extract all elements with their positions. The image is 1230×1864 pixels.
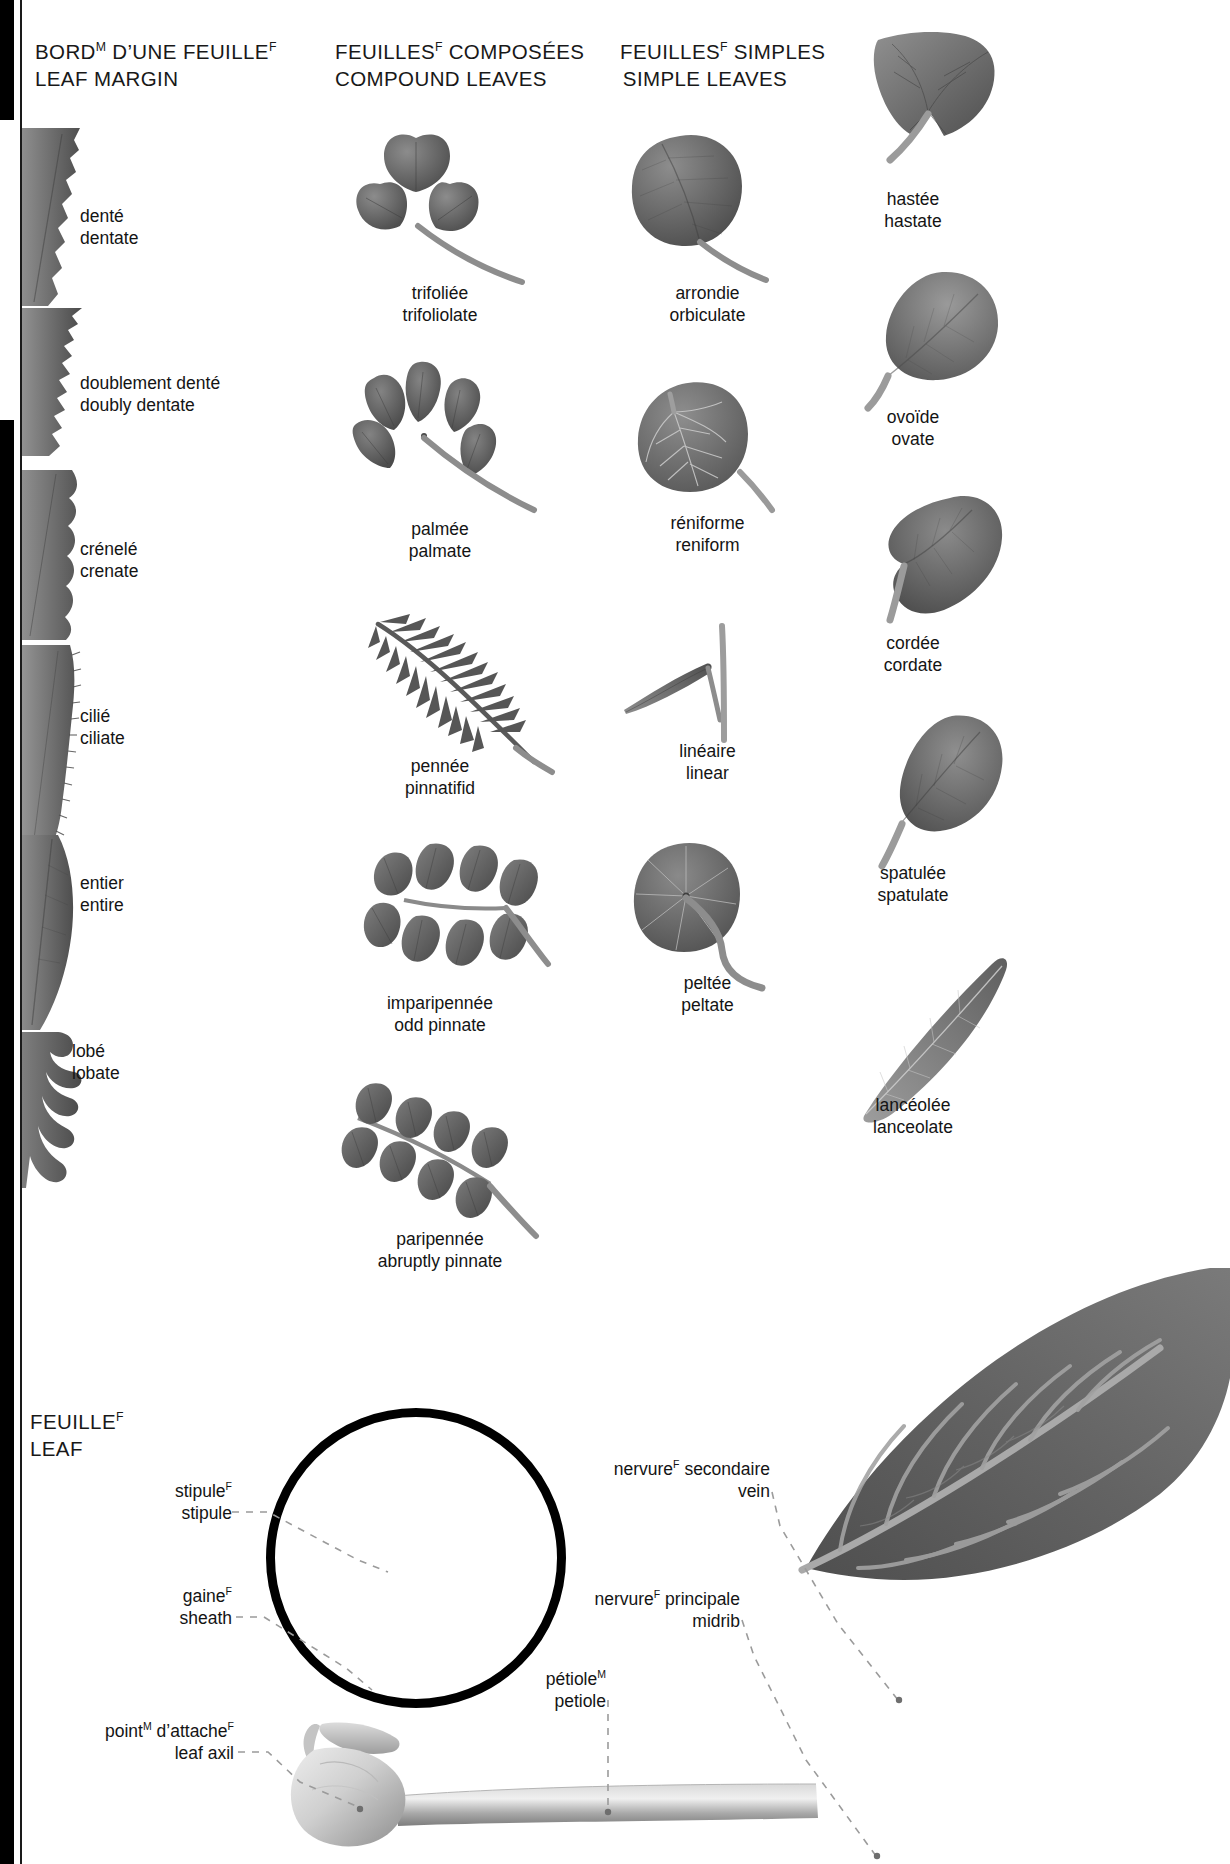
leaf-margin-crenate-art bbox=[22, 470, 80, 640]
leaf-abruptly-pinnate-art bbox=[340, 1078, 550, 1248]
leaf-trifoliolate-art bbox=[350, 130, 540, 290]
caption-vein: nervureF secondaire vein bbox=[560, 1458, 770, 1503]
leaf-orbiculate-art bbox=[622, 130, 792, 290]
caption-cordate: cordéecordate bbox=[838, 632, 988, 677]
caption-reniform: réniformereniform bbox=[610, 512, 805, 557]
leaf-margin-dentate-art bbox=[22, 128, 82, 308]
caption-hastate: hastéehastate bbox=[838, 188, 988, 233]
caption-palmate: palméepalmate bbox=[340, 518, 540, 563]
caption-abruptly-pinnate: paripennéeabruptly pinnate bbox=[330, 1228, 550, 1273]
caption-ciliate: ciliéciliate bbox=[80, 705, 125, 750]
leaf-margin-doubly-dentate-art bbox=[22, 308, 84, 458]
leaf-linear-art bbox=[620, 618, 780, 748]
caption-lobate: lobélobate bbox=[72, 1040, 120, 1085]
caption-stipule: stipuleF stipule bbox=[32, 1480, 232, 1525]
caption-pinnatifid: pennéepinnatifid bbox=[340, 755, 540, 800]
caption-linear: linéairelinear bbox=[610, 740, 805, 785]
caption-petiole: pétioleM petiole bbox=[438, 1668, 606, 1713]
leaf-margin-ciliate-art bbox=[22, 645, 80, 845]
header-simple-leaves: FEUILLESF SIMPLES SIMPLE LEAVES bbox=[620, 38, 790, 92]
index-tab bbox=[0, 120, 14, 420]
magnifier-circle bbox=[266, 1408, 566, 1708]
caption-orbiculate: arrondieorbiculate bbox=[610, 282, 805, 327]
header-compound-leaves: FEUILLESF COMPOSÉES COMPOUND LEAVES bbox=[335, 38, 540, 92]
leaf-cordate-art bbox=[856, 490, 1026, 650]
caption-entire: entierentire bbox=[80, 872, 124, 917]
leaf-anatomy-base-art bbox=[262, 1720, 462, 1864]
leaf-margin-entire-art bbox=[22, 835, 80, 1030]
caption-crenate: crénelécrenate bbox=[80, 538, 138, 583]
leaf-reniform-art bbox=[622, 372, 792, 522]
caption-lanceolate: lancéoléelanceolate bbox=[838, 1094, 988, 1139]
leaf-spatulate-art bbox=[868, 712, 1028, 872]
caption-dentate: dentédentate bbox=[80, 205, 138, 250]
header-leaf: FEUILLEF LEAF bbox=[30, 1408, 124, 1462]
leaf-palmate-art bbox=[348, 358, 548, 528]
caption-odd-pinnate: imparipennéeodd pinnate bbox=[330, 992, 550, 1037]
leaf-ovate-art bbox=[862, 268, 1022, 408]
caption-midrib: nervureF principale midrib bbox=[548, 1588, 740, 1633]
header-leaf-margin: BORDM D’UNE FEUILLEF LEAF MARGIN bbox=[35, 38, 276, 92]
caption-trifoliolate: trifoliéetrifoliolate bbox=[340, 282, 540, 327]
caption-peltate: peltéepeltate bbox=[610, 972, 805, 1017]
leaf-odd-pinnate-art bbox=[348, 838, 558, 998]
caption-leaf-axil: pointM d’attacheF leaf axil bbox=[22, 1720, 234, 1765]
caption-sheath: gaineF sheath bbox=[32, 1585, 232, 1630]
caption-ovate: ovoïdeovate bbox=[838, 406, 988, 451]
caption-doubly-dentate: doublement dentédoubly dentate bbox=[80, 372, 220, 417]
caption-spatulate: spatuléespatulate bbox=[838, 862, 988, 907]
leaf-hastate-art bbox=[848, 30, 1028, 180]
